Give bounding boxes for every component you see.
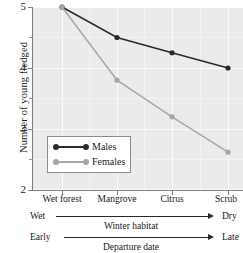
habitat-right-label: Dry (222, 210, 237, 223)
gridline-horizontal-minor (33, 98, 243, 99)
y-axis-title: Number of young fledged (18, 13, 29, 183)
departure-left-label: Early (30, 231, 51, 244)
y-tick-minor (29, 37, 32, 38)
legend-label-females: Females (92, 155, 125, 169)
y-tick-major (28, 7, 32, 8)
arrow-head-icon (208, 234, 214, 240)
habitat-left-label: Wet (30, 210, 45, 223)
y-tick-label: 4 (0, 62, 26, 73)
y-tick-label: 3 (0, 123, 26, 134)
legend-marker-females (83, 159, 89, 165)
figure: Number of young fledged 5 4 3 2 Wet fore… (0, 0, 243, 253)
legend-marker-females (53, 159, 59, 165)
y-tick-label: 2 (0, 184, 26, 195)
legend-label-males: Males (92, 140, 116, 154)
gridline-horizontal (33, 68, 243, 69)
arrow-head-icon (208, 213, 214, 219)
habitat-caption: Winter habitat (104, 221, 158, 231)
legend: Males Females (47, 136, 131, 173)
legend-entry-females: Females (48, 155, 132, 169)
gridline-horizontal (33, 7, 243, 8)
legend-entry-males: Males (48, 140, 132, 154)
y-axis-line (32, 7, 33, 191)
y-tick-major (28, 129, 32, 130)
x-tick-label-scrub: Scrub (215, 194, 237, 204)
departure-caption: Departure date (103, 242, 159, 252)
y-tick-minor (29, 98, 32, 99)
departure-right-label: Late (222, 231, 239, 244)
x-tick-label-mangrove: Mangrove (97, 194, 136, 204)
x-tick-label-citrus: Citrus (160, 194, 183, 204)
legend-marker-males (83, 144, 89, 150)
y-tick-major (28, 68, 32, 69)
y-tick-major (28, 190, 32, 191)
y-tick-minor (29, 159, 32, 160)
arrow-shaft (64, 237, 210, 238)
x-axis-line (33, 190, 243, 191)
gridline-horizontal (33, 129, 243, 130)
gridline-horizontal-minor (33, 37, 243, 38)
y-tick-label: 5 (0, 1, 26, 12)
arrow-shaft (56, 216, 210, 217)
legend-marker-males (53, 144, 59, 150)
x-tick-label-wet-forest: Wet forest (42, 194, 81, 204)
